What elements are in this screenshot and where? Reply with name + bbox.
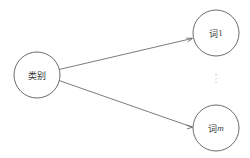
node-word-m-index: m xyxy=(217,123,224,133)
node-category[interactable]: 类别 xyxy=(14,52,60,98)
edge-category-to-word-m xyxy=(59,81,193,129)
node-word-1-label: 词1 xyxy=(209,28,223,38)
diagram-canvas: 类别 词1 词m ⋮ xyxy=(0,0,250,158)
node-word-m[interactable]: 词m xyxy=(193,105,239,151)
vertical-ellipsis-icon: ⋮ xyxy=(211,72,222,85)
node-category-label: 类别 xyxy=(28,70,46,81)
node-word-m-label: 词m xyxy=(208,123,224,133)
node-word-1-stem: 词 xyxy=(209,29,218,39)
edge-line-upper xyxy=(59,39,192,70)
node-word-1-index: 1 xyxy=(218,28,223,38)
node-word-1[interactable]: 词1 xyxy=(193,10,239,56)
edge-line-lower xyxy=(59,81,192,128)
node-word-m-stem: 词 xyxy=(208,124,217,134)
edge-category-to-word-1 xyxy=(59,38,193,69)
arrowhead-lower xyxy=(187,125,193,129)
arrowhead-upper xyxy=(186,38,192,42)
diagram-svg: 类别 词1 词m ⋮ xyxy=(0,0,250,158)
